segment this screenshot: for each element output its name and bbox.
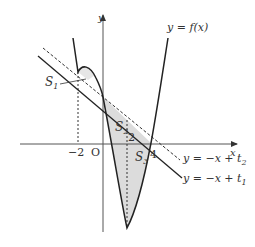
s1-pointer: [60, 79, 86, 84]
origin-label: O: [91, 146, 100, 159]
region-s1-label: S1: [45, 75, 58, 91]
line-t1-label: y = −x + t1: [182, 172, 247, 187]
region-s1-shading: [78, 68, 95, 80]
tick-2: 2: [128, 131, 135, 144]
y-axis-label: y: [97, 12, 104, 23]
function-diagram: y x O −2 2 4 y = f(x) y = −x + t2 y = −x…: [0, 0, 255, 247]
tick-4: 4: [150, 148, 157, 161]
line-t2-label: y = −x + t2: [182, 152, 247, 167]
curve-label: y = f(x): [166, 21, 208, 34]
line-t1: [38, 56, 182, 178]
tick-neg2: −2: [68, 146, 84, 159]
